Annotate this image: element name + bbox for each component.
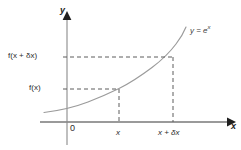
y-axis-label: y — [60, 6, 65, 15]
exponential-function-graph: y x 0 f(x + δx) f(x) x x + δx y = ex — [0, 0, 241, 150]
x-tick-label-x: x — [116, 129, 120, 137]
exponential-curve — [44, 27, 186, 113]
curve-equation-exponent: x — [208, 24, 211, 30]
x-axis-label: x — [231, 122, 236, 131]
y-tick-label-fx-plus-dx: f(x + δx) — [8, 52, 37, 60]
curve-equation-label: y = ex — [190, 24, 211, 35]
y-tick-label-fx: f(x) — [29, 84, 41, 92]
graph-canvas — [0, 0, 241, 150]
x-tick-label-x-plus-dx: x + δx — [158, 129, 180, 137]
origin-label: 0 — [70, 124, 75, 133]
curve-equation-base: y = e — [190, 26, 208, 35]
